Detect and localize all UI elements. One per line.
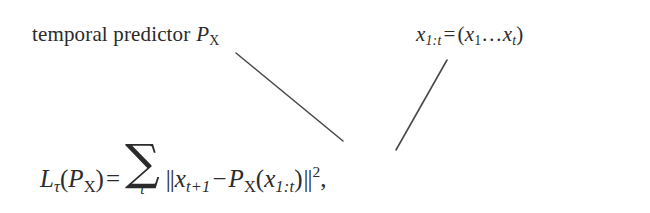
norm-open-bars: || [165, 165, 175, 192]
callout-right-close-paren: ) [516, 22, 523, 46]
callout-right-term1-base: x [465, 22, 474, 46]
loss-equation: Lτ(PX)= ∑ t ||xt+1−PX(x1:t)||2, [40, 143, 327, 197]
callout-right-open-paren: ( [457, 22, 464, 46]
callout-right-term2-base: x [503, 22, 512, 46]
leader-line-sequence [396, 60, 447, 150]
callout-label-temporal-predictor: temporal predictor PX [32, 24, 219, 48]
callout-left-symbol-subscript: X [209, 33, 219, 48]
equation-argument-open-paren: ( [256, 165, 264, 192]
equation-predictor-subscript: X [84, 176, 96, 195]
equation-target-base: x [175, 165, 186, 192]
equation-prediction-subscript: X [244, 176, 256, 195]
callout-left-symbol-base: P [196, 22, 209, 46]
equation-trailing-comma: , [320, 165, 326, 192]
equation-prediction-base: P [229, 165, 244, 192]
callout-right-ellipsis: … [481, 22, 503, 46]
callout-left-words: temporal predictor [32, 22, 190, 46]
equation-argument-close-paren: ) [294, 165, 302, 192]
equation-argument-subscript: 1:t [275, 176, 294, 195]
callout-right-equals-sign: = [441, 22, 457, 46]
summation-operator: ∑ t [125, 143, 160, 197]
callout-label-input-sequence: x1:t=(x1…xt) [416, 24, 523, 48]
callout-right-lhs-subscript: 1:t [425, 33, 441, 48]
equation-equals-sign: = [104, 165, 122, 192]
equation-argument-base: x [264, 165, 275, 192]
equation-predictor-base: P [68, 165, 83, 192]
equation-target-subscript: t+1 [186, 176, 211, 195]
formula-figure: temporal predictor PX x1:t=(x1…xt) Lτ(PX… [0, 0, 650, 213]
equation-minus-sign: − [211, 165, 229, 192]
equation-loss-base: L [40, 165, 54, 192]
summation-sigma-glyph: ∑ [125, 143, 160, 181]
norm-close-bars: || [303, 165, 313, 192]
equation-close-paren: ) [96, 165, 104, 192]
leader-line-predictor [236, 53, 343, 141]
